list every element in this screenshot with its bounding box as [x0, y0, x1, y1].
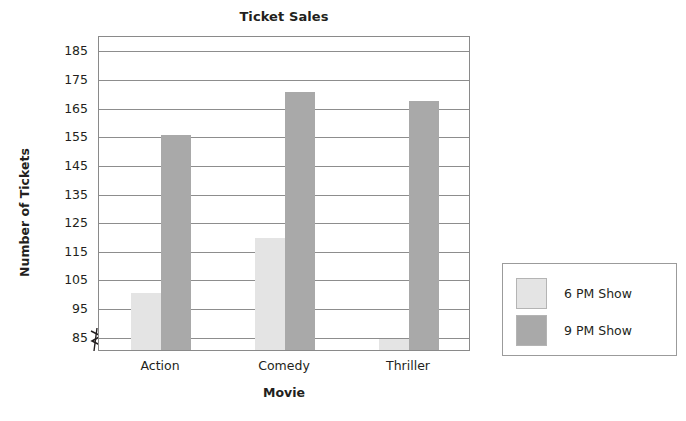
y-axis-tick-label: 105: [28, 272, 88, 287]
chart-canvas: Ticket Sales Number of Tickets 859510511…: [0, 0, 686, 421]
legend-item: 9 PM Show: [516, 315, 632, 346]
x-axis-tick-label: Action: [100, 358, 220, 373]
bar-thriller-9-pm-show: [409, 101, 439, 350]
x-axis-tick-label: Comedy: [224, 358, 344, 373]
legend: 6 PM Show9 PM Show: [502, 263, 677, 356]
y-axis-tick-label: 125: [28, 215, 88, 230]
plot-area: [98, 36, 470, 351]
y-axis-tick-label: 155: [28, 129, 88, 144]
bars-layer: [99, 37, 469, 350]
y-axis-tick-label: 185: [28, 43, 88, 58]
y-axis-tick-labels: 8595105115125135145155165175185: [0, 0, 98, 421]
y-axis-tick-label: 165: [28, 100, 88, 115]
x-axis-tick-label: Thriller: [348, 358, 468, 373]
bar-thriller-6-pm-show: [379, 339, 409, 350]
legend-label: 6 PM Show: [564, 286, 632, 301]
bar-action-9-pm-show: [161, 135, 191, 350]
y-axis-tick-label: 115: [28, 243, 88, 258]
x-axis-title: Movie: [98, 385, 470, 400]
legend-label: 9 PM Show: [564, 323, 632, 338]
chart-title: Ticket Sales: [98, 9, 470, 24]
y-axis-tick-label: 85: [28, 329, 88, 344]
y-axis-tick-label: 95: [28, 301, 88, 316]
legend-item: 6 PM Show: [516, 278, 632, 309]
legend-swatch-icon: [516, 278, 547, 309]
bar-comedy-6-pm-show: [255, 238, 285, 350]
bar-action-6-pm-show: [131, 293, 161, 350]
y-axis-tick-label: 145: [28, 157, 88, 172]
bar-comedy-9-pm-show: [285, 92, 315, 350]
y-axis-tick-label: 175: [28, 71, 88, 86]
y-axis-tick-label: 135: [28, 186, 88, 201]
legend-swatch-icon: [516, 315, 547, 346]
